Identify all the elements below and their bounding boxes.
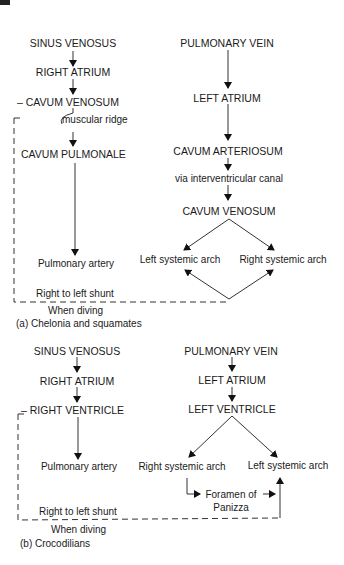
diagram-lines bbox=[0, 0, 344, 565]
b-left-atrium: LEFT ATRIUM bbox=[198, 374, 265, 386]
a-pulmonary-vein: PULMONARY VEIN bbox=[180, 37, 274, 49]
b-pulmonary-vein: PULMONARY VEIN bbox=[184, 345, 278, 357]
a-muscular-ridge: muscular ridge bbox=[62, 114, 128, 126]
a-left-atrium: LEFT ATRIUM bbox=[193, 92, 260, 104]
a-sinus-venosus: SINUS VENOSUS bbox=[30, 37, 116, 49]
b-right-systemic-arch: Right systemic arch bbox=[138, 461, 225, 473]
b-caption: (b) Crocodilians bbox=[20, 538, 90, 550]
a-shunt-label: Right to left shunt bbox=[36, 288, 114, 300]
a-cavum-venosum-left: – CAVUM VENOSUM bbox=[17, 96, 119, 108]
b-right-ventricle: – RIGHT VENTRICLE bbox=[21, 404, 124, 416]
a-right-atrium: RIGHT ATRIUM bbox=[36, 66, 110, 78]
b-right-atrium: RIGHT ATRIUM bbox=[40, 375, 114, 387]
a-pulmonary-artery: Pulmonary artery bbox=[38, 258, 114, 270]
a-cavum-pulmonale: CAVUM PULMONALE bbox=[21, 148, 126, 160]
a-diving-label: When diving bbox=[48, 305, 103, 317]
a-interventricular-canal: via interventricular canal bbox=[175, 173, 283, 185]
a-cavum-arteriosum: CAVUM ARTERIOSUM bbox=[173, 145, 282, 157]
b-diving-label: When diving bbox=[51, 524, 106, 536]
b-shunt-label: Right to left shunt bbox=[39, 506, 117, 518]
b-sinus-venosus: SINUS VENOSUS bbox=[34, 345, 120, 357]
a-left-systemic-arch: Left systemic arch bbox=[140, 254, 221, 266]
a-right-systemic-arch: Right systemic arch bbox=[239, 254, 326, 266]
a-caption: (a) Chelonia and squamates bbox=[16, 318, 142, 330]
b-foramen-line1: Foramen of bbox=[205, 489, 256, 501]
b-foramen-line2: Panizza bbox=[213, 502, 249, 514]
a-cavum-venosum-right: CAVUM VENOSUM bbox=[182, 205, 275, 217]
b-left-systemic-arch: Left systemic arch bbox=[248, 460, 329, 472]
b-left-ventricle: LEFT VENTRICLE bbox=[188, 403, 275, 415]
b-pulmonary-artery: Pulmonary artery bbox=[41, 461, 117, 473]
